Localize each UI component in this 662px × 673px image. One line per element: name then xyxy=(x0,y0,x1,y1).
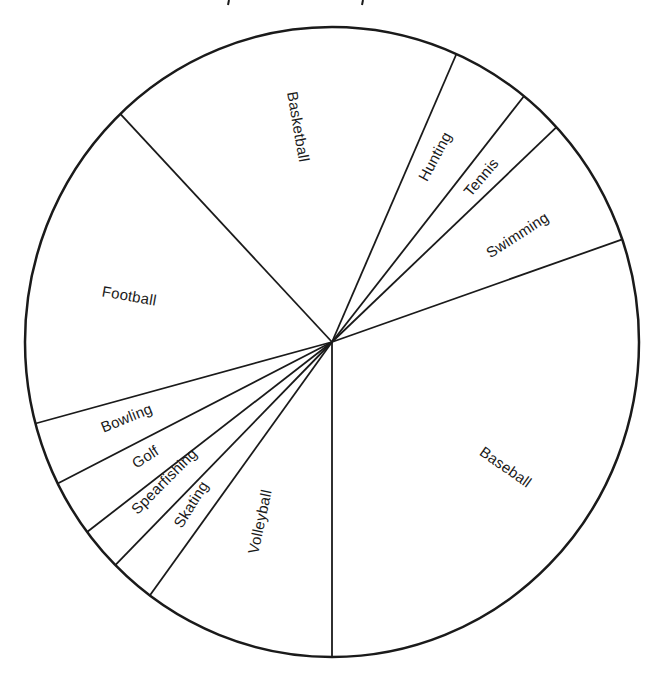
pie-chart: BasketballHuntingTennisSwimmingBaseballV… xyxy=(0,0,662,673)
title-fragment xyxy=(228,0,363,5)
